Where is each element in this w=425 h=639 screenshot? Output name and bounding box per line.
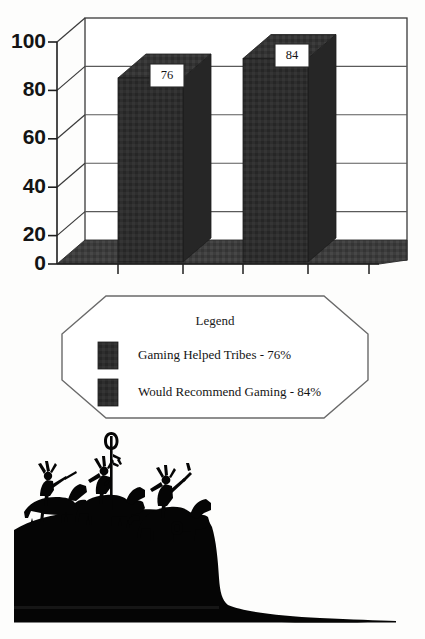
legend-label-2: Would Recommend Gaming - 84% [138, 384, 321, 399]
chart-floor [57, 240, 407, 264]
data-label-84: 84 [275, 44, 309, 67]
y-axis-ticks [48, 42, 57, 264]
chart-legend: Legend Gaming Helped Tribes - 76% Would … [60, 294, 370, 420]
y-tick-label-100: 100 [11, 29, 46, 52]
y-tick-label-0: 0 [34, 251, 46, 274]
ground-shadow [14, 606, 219, 609]
rider-2 [75, 432, 145, 526]
illustration-canvas [0, 428, 425, 639]
legend-swatch-2 [98, 379, 118, 406]
bar-chart: 0 20 40 60 80 100 [0, 0, 425, 290]
legend-canvas: Legend Gaming Helped Tribes - 76% Would … [60, 294, 370, 420]
y-axis-tick-labels: 0 20 40 60 80 100 [11, 29, 46, 274]
legend-swatch-1 [98, 342, 118, 369]
axis-depth-connectors [57, 18, 85, 236]
chart-canvas: 0 20 40 60 80 100 [0, 0, 425, 290]
y-tick-label-40: 40 [23, 174, 46, 197]
x-axis-ticks [118, 264, 369, 274]
data-label-76-text: 76 [161, 68, 174, 82]
data-label-76: 76 [150, 64, 184, 87]
legend-label-1: Gaming Helped Tribes - 76% [138, 347, 291, 362]
y-tick-label-60: 60 [23, 125, 46, 148]
data-label-84-text: 84 [286, 48, 299, 62]
legend-title: Legend [196, 313, 235, 328]
y-tick-label-80: 80 [23, 77, 46, 100]
y-tick-label-20: 20 [23, 222, 46, 245]
illustration-native-american-riders [0, 428, 425, 639]
bar-would-recommend-gaming [243, 35, 336, 263]
scanned-page: 0 20 40 60 80 100 [0, 0, 425, 639]
